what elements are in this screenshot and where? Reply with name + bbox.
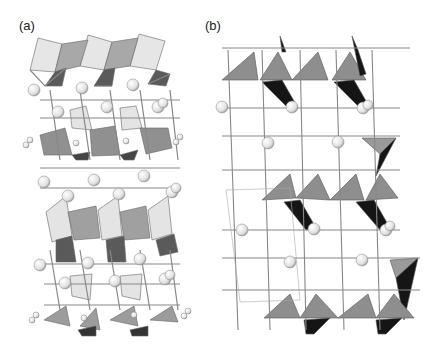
panel-b-polyhedra (222, 36, 418, 334)
panel-b-atoms (216, 100, 395, 268)
figure: (a) (b) (0, 0, 444, 352)
panel-b-structure (0, 0, 444, 352)
